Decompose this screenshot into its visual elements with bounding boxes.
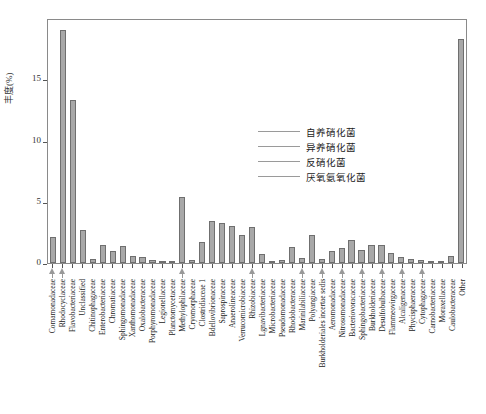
bar [80, 230, 86, 263]
bar [358, 250, 364, 263]
bar-slot [48, 20, 58, 263]
arrow-slot [347, 268, 357, 278]
bar [139, 257, 145, 263]
bar [239, 235, 245, 263]
category-arrow-markers [47, 268, 467, 278]
x-axis-label: Clostridiaceae 1 [198, 279, 207, 327]
x-axis-label: Rhodobacteraceae [288, 279, 297, 333]
x-label-slot: Alcaligenaceae [397, 279, 407, 411]
x-axis-label: Alcaligenaceae [398, 279, 407, 324]
x-axis-label: Chromatiaceae [108, 279, 117, 323]
arrow-slot [437, 268, 447, 278]
x-axis-label: Nitrosomonadaceae [338, 279, 347, 338]
arrow-slot [247, 268, 257, 278]
arrow-slot [107, 268, 117, 278]
bar-series [48, 20, 466, 263]
bar [130, 256, 136, 263]
y-tick-label: 10 [32, 135, 41, 145]
bar [398, 257, 404, 263]
x-label-slot: Unclassified [77, 279, 87, 411]
arrow-slot [197, 268, 207, 278]
x-label-slot: Comamonadaceae [47, 279, 57, 411]
x-axis-label: Saprospiraceae [218, 279, 227, 324]
arrow-slot [207, 268, 217, 278]
arrow-slot [187, 268, 197, 278]
legend-label: 反硝化菌 [306, 155, 346, 169]
bar [209, 221, 215, 263]
bar [110, 251, 116, 263]
bar [348, 240, 354, 263]
arrow-slot [77, 268, 87, 278]
bar [339, 248, 345, 263]
x-label-slot: Marinilabiliaceae [297, 279, 307, 411]
bar [189, 260, 195, 263]
x-axis-label: Flavobacteriaceae [68, 279, 77, 332]
bar-slot [446, 20, 456, 263]
up-arrow-icon [339, 268, 345, 274]
x-axis-label: Methylophilaceae [178, 279, 187, 332]
up-arrow-icon [319, 268, 325, 274]
legend-line-icon [258, 176, 300, 177]
legend-label: 异养硝化菌 [306, 140, 356, 154]
x-axis-label: Caulobacteraceae [448, 279, 457, 331]
x-label-slot: Enterobacteriaceae [97, 279, 107, 411]
arrow-slot [357, 268, 367, 278]
x-axis-label: Cytophagaceae [418, 279, 427, 324]
bar [319, 259, 325, 263]
bar-slot [406, 20, 416, 263]
x-axis-label: Unclassified [78, 279, 87, 316]
bar [448, 256, 454, 263]
x-axis-label: Sphingomonadaceae [118, 279, 127, 340]
arrow-slot [447, 268, 457, 278]
bar [418, 260, 424, 263]
legend: 自养硝化菌 异养硝化菌 反硝化菌 厌氧氨氧化菌 [258, 124, 398, 184]
arrow-slot [427, 268, 437, 278]
x-label-slot: Pseudomonadaceae [277, 279, 287, 411]
x-label-slot: Caulobacteraceae [447, 279, 457, 411]
x-axis-label: Comamonadaceae [48, 279, 57, 333]
x-label-slot: Xanthomonadaceae [127, 279, 137, 411]
x-label-slot: Burkholderiaceae [367, 279, 377, 411]
arrow-slot [67, 268, 77, 278]
bar-slot [247, 20, 257, 263]
bar-slot [98, 20, 108, 263]
bar [388, 253, 394, 263]
bar-slot [436, 20, 446, 263]
legend-label: 厌氧氨氧化菌 [306, 170, 366, 184]
arrow-slot [167, 268, 177, 278]
bar [149, 260, 155, 263]
x-axis-labels: ComamonadaceaeRhodocyclaceaeFlavobacteri… [47, 279, 467, 411]
arrow-slot [137, 268, 147, 278]
bar [428, 261, 434, 263]
x-label-slot: Verrucomicrobiaceae [237, 279, 247, 411]
bar-slot [456, 20, 466, 263]
bar [438, 261, 444, 263]
bar [179, 197, 185, 263]
y-axis: 051015 [0, 19, 47, 264]
x-label-slot: Cytophagaceae [417, 279, 427, 411]
bar [368, 245, 374, 263]
x-label-slot: Other [457, 279, 467, 411]
bar [289, 247, 295, 263]
legend-label: 自养硝化菌 [306, 125, 356, 139]
bar-slot [197, 20, 207, 263]
arrow-slot [57, 268, 67, 278]
legend-line-icon [258, 146, 300, 147]
arrow-slot [407, 268, 417, 278]
bar-slot [237, 20, 247, 263]
arrow-slot [387, 268, 397, 278]
legend-item: 异养硝化菌 [258, 139, 398, 154]
x-axis-label: Chitinophagaceae [88, 279, 97, 332]
bar [259, 254, 265, 263]
x-axis-label: Aeromonadaceae [328, 279, 337, 330]
x-label-slot: Chromatiaceae [107, 279, 117, 411]
bar-slot [108, 20, 118, 263]
bar [309, 235, 315, 263]
arrow-slot [47, 268, 57, 278]
bar [70, 100, 76, 263]
x-label-slot: Cryomorphaceae [187, 279, 197, 411]
x-axis-label: Sphingobacteriaceae [358, 279, 367, 340]
x-axis-label: Carnobacteriaceae [428, 279, 437, 333]
plot-area [47, 19, 467, 264]
bar [199, 242, 205, 263]
